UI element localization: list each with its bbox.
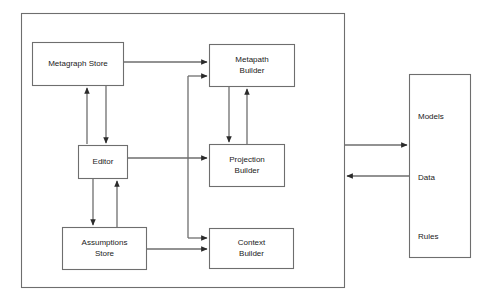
- node-box-metapath-builder[interactable]: [210, 45, 295, 87]
- node-box-editor[interactable]: [79, 146, 128, 179]
- node-box-repository[interactable]: [410, 75, 471, 258]
- node-box-projection-builder[interactable]: [210, 145, 285, 187]
- node-box-assumptions-store[interactable]: [63, 228, 147, 270]
- diagram-canvas: Metagraph Store Metapath Builder Editor …: [0, 0, 491, 300]
- diagram-vector-layer: [0, 0, 491, 300]
- node-box-context-builder[interactable]: [210, 229, 294, 269]
- node-box-metagraph-store[interactable]: [33, 43, 124, 86]
